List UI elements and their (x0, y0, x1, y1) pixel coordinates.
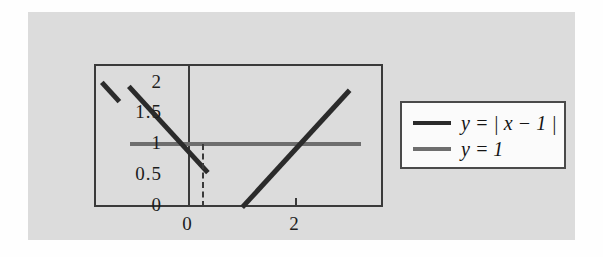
x-tick-2 (295, 198, 297, 207)
y-tick-label-0: 0 (124, 195, 162, 214)
x-tick-label-2: 2 (279, 214, 309, 233)
y-tick-label-1: 1 (124, 133, 162, 152)
figure-root: 2 1.5 1 0.5 0 0 2 y = | x − 1 | y = 1 (0, 0, 603, 257)
x-tick-0 (188, 198, 190, 207)
y-tick-label-2: 2 (124, 72, 162, 91)
legend-entry-const: y = 1 (402, 136, 564, 162)
x-tick-label-0: 0 (172, 214, 202, 233)
y-tick-label-1-5: 1.5 (106, 102, 162, 121)
drop-line-at-x-2 (202, 144, 204, 207)
series-line-abs-descending (127, 85, 209, 174)
legend-label-const: y = 1 (461, 138, 503, 161)
y-axis-line (188, 66, 190, 207)
series-line-y-equals-1 (130, 142, 361, 146)
legend-entry-abs: y = | x − 1 | (402, 110, 564, 136)
series-line-abs-ascending (240, 89, 351, 209)
legend-label-abs: y = | x − 1 | (461, 112, 557, 135)
legend-swatch-const-icon (413, 147, 451, 151)
legend-box: y = | x − 1 | y = 1 (400, 101, 566, 169)
y-tick-label-0-5: 0.5 (106, 164, 162, 183)
figure-panel: 2 1.5 1 0.5 0 0 2 y = | x − 1 | y = 1 (28, 12, 575, 240)
legend-swatch-abs-icon (413, 121, 451, 125)
